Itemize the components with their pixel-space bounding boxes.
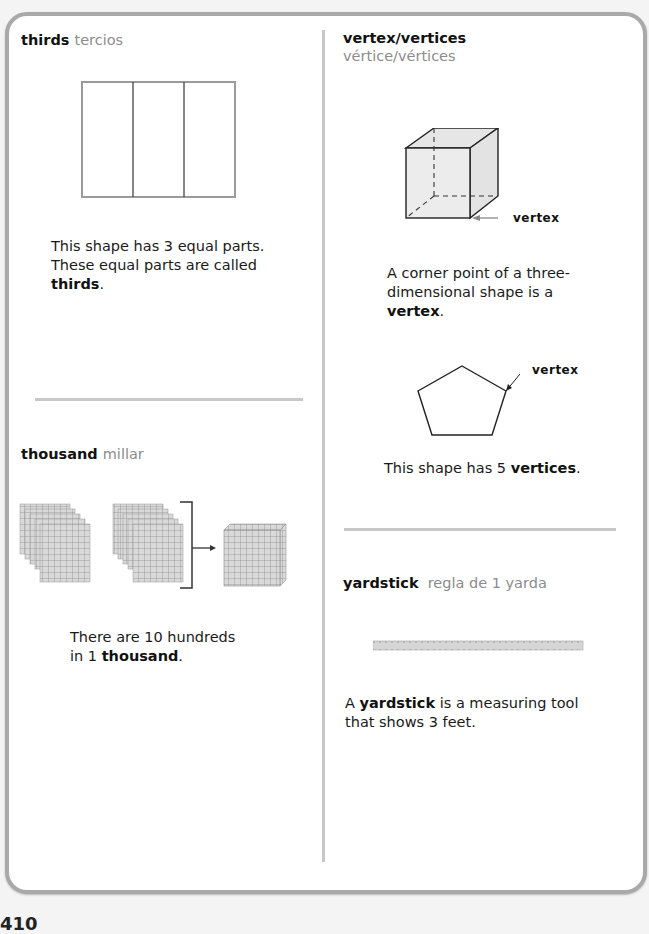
translation-vertice: vértice/vértices bbox=[343, 48, 466, 64]
term-yardstick: yardstick bbox=[343, 575, 419, 591]
thousand-bold: thousand bbox=[102, 648, 179, 664]
yardstick-description: A yardstick is a measuring tool that sho… bbox=[345, 694, 579, 732]
section-divider-right bbox=[344, 528, 616, 531]
thirds-rectangle-figure bbox=[80, 80, 240, 200]
vertex-period: . bbox=[440, 303, 445, 319]
translation-regla: regla de 1 yarda bbox=[428, 575, 547, 591]
vertex-bold: vertex bbox=[387, 303, 440, 319]
thousand-description: There are 10 hundreds in 1 thousand. bbox=[70, 628, 235, 666]
entry-thirds-heading: thirds tercios bbox=[21, 30, 123, 49]
vertex-desc-line3: vertex. bbox=[387, 302, 570, 321]
thousand-blocks-figure bbox=[18, 500, 313, 595]
vertex-description: A corner point of a three- dimensional s… bbox=[387, 264, 570, 321]
yardstick-bold: yardstick bbox=[360, 695, 436, 711]
section-divider-left bbox=[35, 398, 303, 401]
page-number: 410 bbox=[0, 913, 38, 934]
term-vertex: vertex/vertices bbox=[343, 30, 466, 46]
thirds-desc-line2: These equal parts are called bbox=[51, 256, 264, 275]
pentagon-arrow-icon bbox=[502, 373, 532, 393]
vertex-desc-line2: dimensional shape is a bbox=[387, 283, 570, 302]
thirds-description: This shape has 3 equal parts. These equa… bbox=[51, 237, 264, 294]
thousand-desc-line2: in 1 thousand. bbox=[70, 647, 235, 666]
column-divider bbox=[322, 30, 325, 862]
pentagon-period: . bbox=[576, 460, 581, 476]
pentagon-description: This shape has 5 vertices. bbox=[384, 459, 581, 478]
thousand-desc-line1: There are 10 hundreds bbox=[70, 628, 235, 647]
entry-thousand-heading: thousand millar bbox=[21, 444, 144, 463]
term-thousand: thousand bbox=[21, 446, 98, 462]
pentagon-vertex-label: vertex bbox=[532, 363, 579, 377]
thirds-desc-line3: thirds. bbox=[51, 275, 264, 294]
translation-millar: millar bbox=[103, 446, 144, 462]
translation-tercios: tercios bbox=[74, 32, 123, 48]
thirds-desc-line1: This shape has 3 equal parts. bbox=[51, 237, 264, 256]
pentagon-desc-prefix: This shape has 5 bbox=[384, 460, 511, 476]
yardstick-desc-rest: is a measuring tool bbox=[435, 695, 578, 711]
entry-yardstick-heading: yardstick regla de 1 yarda bbox=[343, 573, 547, 592]
cube-vertex-label: vertex bbox=[513, 211, 560, 225]
vertex-desc-line1: A corner point of a three- bbox=[387, 264, 570, 283]
yardstick-desc-line1: A yardstick is a measuring tool bbox=[345, 694, 579, 713]
yardstick-figure bbox=[373, 640, 585, 652]
thirds-period: . bbox=[99, 276, 104, 292]
yardstick-desc-prefix: A bbox=[345, 695, 360, 711]
thousand-period: . bbox=[178, 648, 183, 664]
thirds-bold: thirds bbox=[51, 276, 99, 292]
term-thirds: thirds bbox=[21, 32, 69, 48]
yardstick-desc-line2: that shows 3 feet. bbox=[345, 713, 579, 732]
entry-vertex-heading: vertex/vertices vértice/vértices bbox=[343, 30, 466, 64]
thousand-desc-prefix: in 1 bbox=[70, 648, 102, 664]
vertices-bold: vertices bbox=[511, 460, 576, 476]
pentagon-figure bbox=[410, 360, 520, 440]
